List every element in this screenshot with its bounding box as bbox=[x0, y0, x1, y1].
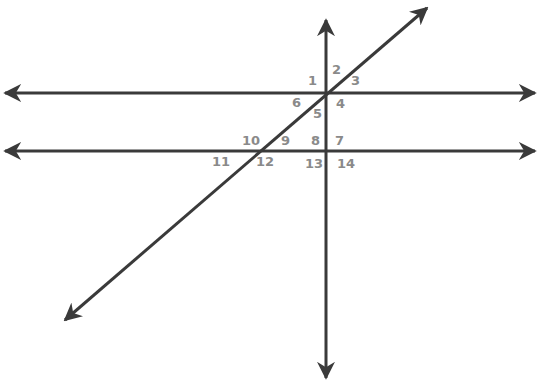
angle-label-2: 2 bbox=[332, 62, 341, 77]
angle-label-11: 11 bbox=[212, 154, 230, 169]
angle-label-5: 5 bbox=[313, 106, 322, 121]
angle-label-8: 8 bbox=[311, 133, 320, 148]
angle-label-1: 1 bbox=[308, 73, 317, 88]
angle-label-13: 13 bbox=[305, 156, 323, 171]
angle-label-10: 10 bbox=[242, 133, 260, 148]
angle-label-14: 14 bbox=[337, 156, 355, 171]
angle-diagram: 1234567891011121314 bbox=[0, 0, 541, 381]
angle-label-12: 12 bbox=[256, 154, 274, 169]
line-diagonal bbox=[65, 8, 427, 320]
angle-label-3: 3 bbox=[351, 73, 360, 88]
angle-label-4: 4 bbox=[336, 96, 345, 111]
angle-label-7: 7 bbox=[335, 133, 344, 148]
angle-label-6: 6 bbox=[292, 95, 301, 110]
angle-label-9: 9 bbox=[281, 133, 290, 148]
